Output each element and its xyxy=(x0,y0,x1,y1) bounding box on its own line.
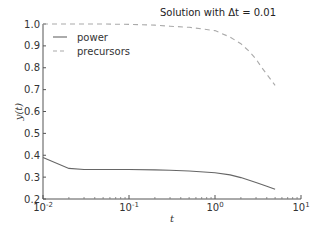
x-tick-label: 10-1 xyxy=(119,201,139,213)
legend-label-precursors: precursors xyxy=(77,46,130,57)
legend-label-power: power xyxy=(77,32,109,43)
x-axis-label: t xyxy=(170,213,175,224)
y-tick-label: 0.3 xyxy=(24,172,40,183)
y-tick-label: 0.6 xyxy=(24,106,40,117)
y-tick-label: 0.4 xyxy=(24,150,40,161)
line-chart: Solution with Δt = 0.010.20.30.40.50.60.… xyxy=(0,0,321,234)
y-axis-label: y(t) xyxy=(13,103,24,122)
y-tick-label: 0.8 xyxy=(24,62,40,73)
y-tick-label: 0.7 xyxy=(24,84,40,95)
x-tick-label: 10-2 xyxy=(33,201,53,213)
x-tick-label: 101 xyxy=(292,201,309,213)
series-line-power xyxy=(43,157,275,189)
y-tick-label: 0.5 xyxy=(24,128,40,139)
y-tick-label: 1.0 xyxy=(24,19,40,30)
y-tick-label: 0.9 xyxy=(24,40,40,51)
x-tick-label: 100 xyxy=(206,201,223,213)
chart-title: Solution with Δt = 0.01 xyxy=(160,7,276,18)
